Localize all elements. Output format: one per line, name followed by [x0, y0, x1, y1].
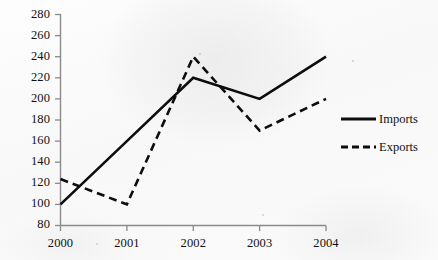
y-tick-label-80: 80 [10, 217, 50, 232]
chart-plot-area [0, 0, 438, 260]
y-tick-label-260: 260 [10, 28, 50, 43]
x-tick-label-2002: 2002 [163, 236, 223, 251]
x-axis-ticks [61, 226, 327, 232]
x-tick-label-2004: 2004 [296, 236, 356, 251]
legend-label-exports: Exports [379, 140, 418, 155]
y-tick-label-140: 140 [10, 154, 50, 169]
y-tick-label-160: 160 [10, 133, 50, 148]
series-line-imports [61, 57, 327, 205]
line-chart: 280 260 240 220 200 180 160 140 120 100 … [0, 0, 438, 260]
y-tick-label-240: 240 [10, 49, 50, 64]
x-tick-label-2003: 2003 [230, 236, 290, 251]
x-tick-label-2000: 2000 [31, 236, 91, 251]
y-tick-label-280: 280 [10, 7, 50, 22]
y-tick-label-100: 100 [10, 196, 50, 211]
y-tick-label-120: 120 [10, 175, 50, 190]
y-axis-ticks [55, 15, 61, 226]
legend-label-imports: Imports [379, 112, 418, 127]
y-tick-label-180: 180 [10, 112, 50, 127]
x-tick-label-2001: 2001 [97, 236, 157, 251]
y-tick-label-200: 200 [10, 91, 50, 106]
y-tick-label-220: 220 [10, 70, 50, 85]
